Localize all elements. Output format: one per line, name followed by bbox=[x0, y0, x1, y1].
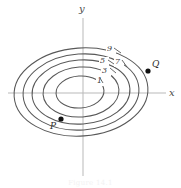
contour-label-7: 7 bbox=[115, 58, 120, 66]
contour-label-9: 9 bbox=[107, 45, 112, 53]
axes-group bbox=[8, 18, 166, 176]
point-Q-dot bbox=[145, 68, 150, 73]
contour-curves-group bbox=[11, 43, 151, 140]
point-P-label: P bbox=[50, 122, 56, 131]
figure-caption: Figure 14.1 bbox=[0, 179, 181, 187]
point-P-dot bbox=[58, 116, 63, 121]
point-Q-label: Q bbox=[152, 60, 159, 69]
y-axis-label: y bbox=[79, 4, 85, 14]
contour-label-1: 1 bbox=[97, 77, 102, 85]
contour-plot-canvas bbox=[0, 0, 181, 188]
contour-label-5: 5 bbox=[100, 57, 105, 65]
x-axis-label: x bbox=[169, 88, 175, 98]
contour-label-3: 3 bbox=[102, 67, 107, 75]
contour-plot-figure: y x 1 3 5 7 9 P Q Figure 14.1 bbox=[0, 0, 181, 188]
